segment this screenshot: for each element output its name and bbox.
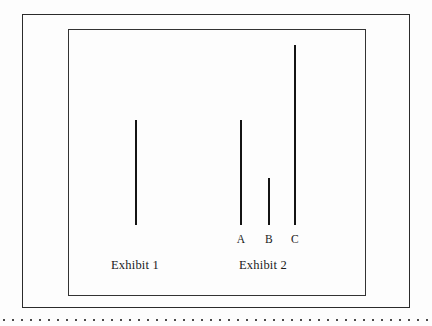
exhibit1-caption: Exhibit 1 <box>75 258 195 272</box>
exhibit2-line-b <box>268 178 270 225</box>
exhibit2-label-a: A <box>230 233 252 245</box>
exhibit2-line-a <box>240 120 242 225</box>
exhibit2-caption: Exhibit 2 <box>203 258 323 272</box>
bottom-dotted-rule <box>0 319 432 322</box>
exhibit2-line-c <box>294 45 296 225</box>
figure-canvas: Exhibit 1 A B C Exhibit 2 <box>0 0 432 326</box>
exhibit2-label-b: B <box>258 233 280 245</box>
exhibit1-standard-line <box>135 120 137 225</box>
exhibit2-label-c: C <box>284 233 306 245</box>
inner-frame-border <box>68 29 366 296</box>
